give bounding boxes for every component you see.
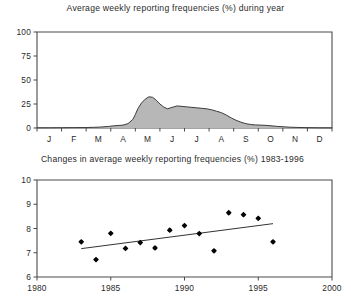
x-tick-label-year: 1985: [101, 283, 121, 293]
data-point-core: [153, 246, 157, 250]
data-point-core: [168, 228, 172, 232]
y-tick-label: 8: [26, 224, 31, 234]
plot-frame: [37, 180, 332, 277]
data-point-core: [138, 241, 142, 245]
y-tick-label: 75: [21, 51, 31, 61]
x-tick-label-month: A: [218, 134, 224, 144]
x-tick-label-month: J: [47, 134, 51, 144]
x-tick-label-month: J: [195, 134, 199, 144]
area-chart-plot: 0255075100JFMAMJJASOND: [0, 0, 351, 152]
x-tick-label-month: O: [267, 134, 274, 144]
x-tick-label-month: A: [120, 134, 126, 144]
y-tick-label: 6: [26, 272, 31, 282]
data-point-core: [183, 224, 187, 228]
scatter-chart-plot: 67891019801985199019952000: [0, 151, 351, 303]
x-tick-label-month: N: [292, 134, 298, 144]
x-tick-label-month: F: [71, 134, 76, 144]
y-tick-label: 0: [26, 123, 31, 133]
data-point-core: [271, 240, 275, 244]
data-point-core: [227, 211, 231, 215]
data-point-core: [124, 246, 128, 250]
x-tick-label-year: 1995: [249, 283, 269, 293]
area-series-fill: [37, 97, 332, 128]
x-tick-label-year: 1980: [27, 283, 47, 293]
data-point-core: [109, 231, 113, 235]
x-tick-label-month: M: [95, 134, 102, 144]
data-point-core: [197, 232, 201, 236]
y-tick-label: 10: [21, 175, 31, 185]
x-tick-label-year: 1990: [175, 283, 195, 293]
scatter-chart-panel: Changes in average weekly reporting freq…: [0, 151, 351, 303]
x-tick-label-month: D: [317, 134, 323, 144]
data-point-core: [79, 240, 83, 244]
x-tick-label-year: 2000: [322, 283, 342, 293]
y-tick-label: 25: [21, 99, 31, 109]
data-point-core: [94, 258, 98, 262]
y-tick-label: 9: [26, 199, 31, 209]
y-tick-label: 7: [26, 248, 31, 258]
x-tick-label-month: M: [144, 134, 151, 144]
y-tick-label: 50: [21, 75, 31, 85]
two-panel-figure: Average weekly reporting frequencies (%)…: [0, 0, 351, 303]
x-tick-label-month: S: [243, 134, 249, 144]
x-tick-label-month: J: [170, 134, 174, 144]
data-point-core: [256, 216, 260, 220]
y-tick-label: 100: [16, 27, 31, 37]
area-chart-panel: Average weekly reporting frequencies (%)…: [0, 0, 351, 152]
trend-line: [81, 224, 273, 249]
data-point-core: [212, 249, 216, 253]
data-point-core: [242, 213, 246, 217]
